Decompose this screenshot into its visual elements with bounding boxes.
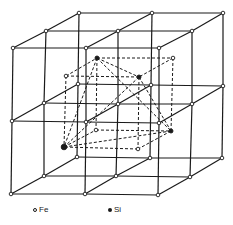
fe-atom	[11, 46, 15, 50]
fe-atom	[220, 156, 224, 160]
fe-open-circle-icon	[33, 208, 37, 212]
fe-atom	[221, 84, 225, 88]
si-atom	[169, 129, 173, 133]
legend-si-label: Si	[114, 205, 121, 214]
fe-atom	[116, 102, 120, 106]
fe-atom	[84, 120, 88, 124]
fe-atom	[157, 121, 161, 125]
fe-atom	[136, 147, 140, 151]
fe-atom	[190, 102, 194, 106]
fe-atom	[83, 192, 87, 196]
fe-atom	[116, 29, 120, 33]
fe-atom	[44, 29, 48, 33]
crystal-lattice-diagram	[0, 0, 233, 225]
fe-atom	[150, 11, 154, 15]
fe-atom	[64, 74, 68, 78]
fe-atom	[42, 174, 46, 178]
fe-atom	[9, 192, 13, 196]
fe-atom	[171, 56, 175, 60]
si-atom	[137, 75, 141, 79]
fe-atom	[94, 128, 98, 132]
fe-atom	[188, 175, 192, 179]
fe-atom	[75, 155, 79, 159]
fe-atom	[148, 156, 152, 160]
legend-si: Si	[108, 205, 121, 214]
fe-atom	[84, 46, 88, 50]
legend-fe-label: Fe	[39, 205, 48, 214]
fe-atom	[149, 83, 153, 87]
fe-atom	[190, 29, 194, 33]
si-atom	[61, 144, 67, 150]
fe-atom	[221, 11, 225, 15]
si-atom	[95, 56, 99, 60]
fe-atom	[42, 101, 46, 105]
fe-atom	[156, 193, 160, 197]
legend-fe: Fe	[33, 205, 48, 214]
fe-atom	[77, 11, 81, 15]
fe-atom	[76, 82, 80, 86]
si-filled-circle-icon	[108, 208, 112, 212]
fe-atom	[157, 46, 161, 50]
fe-atom	[10, 119, 14, 123]
fe-atom	[114, 174, 118, 178]
